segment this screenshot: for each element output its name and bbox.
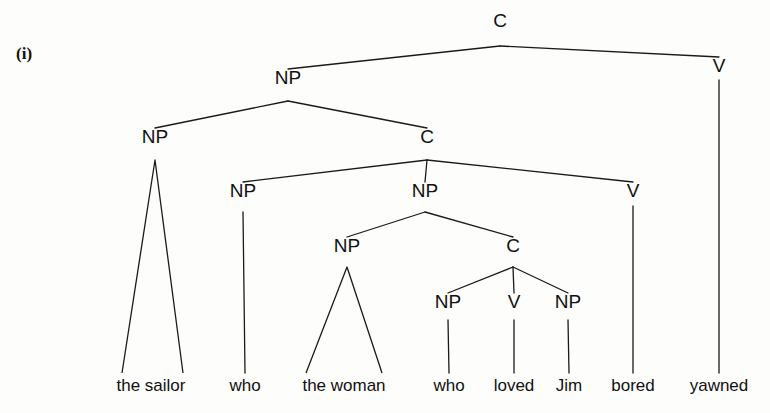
branch-root_c-to-np_top bbox=[288, 46, 500, 69]
branch-np_level3-to-np_woman bbox=[347, 212, 425, 237]
triangle-np_woman bbox=[306, 267, 382, 373]
stem-np_who1 bbox=[243, 212, 245, 373]
leaf-word-3: who bbox=[432, 376, 464, 395]
leaf-word-7: yawned bbox=[690, 376, 749, 395]
node-np_who2: NP bbox=[435, 291, 461, 312]
branch-c_level4-to-np_who2 bbox=[448, 267, 513, 293]
node-np_sailor: NP bbox=[142, 126, 168, 147]
leaf-word-0: the sailor bbox=[117, 376, 186, 395]
node-v_loved: V bbox=[508, 291, 521, 312]
branch-np_level3-to-c_level4 bbox=[425, 212, 513, 237]
branch-np_top-to-c_level2 bbox=[288, 101, 427, 128]
leaf-word-4: loved bbox=[494, 376, 535, 395]
tree-leaves: the sailorwhothe womanwholovedJimboredya… bbox=[117, 376, 749, 395]
branch-c_level2-to-np_level3 bbox=[425, 160, 427, 182]
branch-c_level4-to-np_jim bbox=[513, 267, 568, 293]
tree-edges bbox=[122, 46, 719, 373]
branch-c_level4-to-v_loved bbox=[513, 267, 514, 293]
node-np_jim: NP bbox=[555, 291, 581, 312]
branch-c_level2-to-v_bored bbox=[427, 160, 633, 182]
leaf-word-6: bored bbox=[611, 376, 654, 395]
branch-np_top-to-np_sailor bbox=[155, 101, 288, 128]
node-c_level2: C bbox=[420, 126, 434, 147]
node-root_c: C bbox=[493, 10, 507, 31]
node-c_level4: C bbox=[506, 235, 520, 256]
syntax-tree-figure: (i) CNPNPCVNPNPVNPCNPVNP the sailorwhoth… bbox=[0, 0, 770, 413]
leaf-word-2: the woman bbox=[302, 376, 385, 395]
stem-np_who2 bbox=[448, 320, 449, 373]
node-np_top: NP bbox=[275, 67, 301, 88]
branch-c_level2-to-np_who1 bbox=[243, 160, 427, 182]
triangle-np_sailor bbox=[122, 160, 183, 373]
stem-np_jim bbox=[568, 320, 569, 373]
node-np_who1: NP bbox=[230, 180, 256, 201]
leaf-word-5: Jim bbox=[556, 376, 582, 395]
node-v_bored: V bbox=[627, 180, 640, 201]
branch-root_c-to-v_yawned bbox=[500, 46, 719, 57]
node-np_woman: NP bbox=[334, 235, 360, 256]
tree-diagram-canvas: CNPNPCVNPNPVNPCNPVNP the sailorwhothe wo… bbox=[0, 0, 770, 413]
node-np_level3: NP bbox=[412, 180, 438, 201]
node-v_yawned: V bbox=[713, 55, 726, 76]
leaf-word-1: who bbox=[228, 376, 260, 395]
